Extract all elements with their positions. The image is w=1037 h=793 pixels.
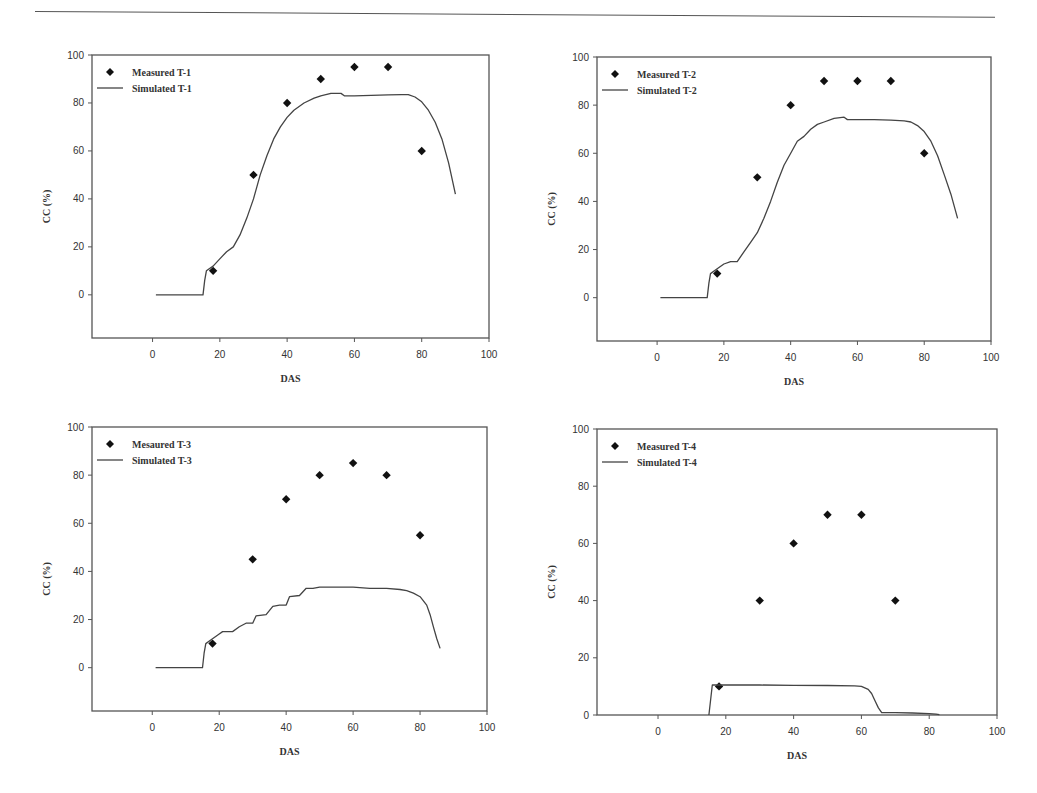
- measured-point: [891, 596, 899, 604]
- measured-point: [756, 596, 764, 604]
- y-tick-label: 40: [578, 595, 590, 606]
- simulated-line: [709, 685, 940, 715]
- x-axis-title: DAS: [787, 750, 807, 761]
- diamond-marker-icon: [611, 442, 619, 450]
- chart-t4: 020406080100020406080100DASCC (%)Measure…: [0, 0, 1037, 793]
- plot-frame: [597, 429, 997, 715]
- x-tick-label: 100: [989, 726, 1006, 737]
- legend-entry: Measured T-4: [637, 441, 696, 452]
- y-tick-label: 60: [578, 538, 590, 549]
- x-tick-label: 0: [655, 726, 661, 737]
- y-tick-label: 100: [572, 424, 589, 435]
- x-tick-label: 40: [788, 726, 800, 737]
- measured-point: [715, 682, 723, 690]
- y-tick-label: 20: [578, 652, 590, 663]
- x-tick-label: 80: [924, 726, 936, 737]
- y-axis-title: CC (%): [546, 565, 558, 599]
- x-tick-label: 20: [720, 726, 732, 737]
- measured-point: [823, 511, 831, 519]
- x-tick-label: 60: [856, 726, 868, 737]
- measured-point: [789, 539, 797, 547]
- y-tick-label: 80: [578, 481, 590, 492]
- measured-point: [857, 511, 865, 519]
- y-tick-label: 0: [583, 710, 589, 721]
- legend-entry: Simulated T-4: [637, 457, 697, 468]
